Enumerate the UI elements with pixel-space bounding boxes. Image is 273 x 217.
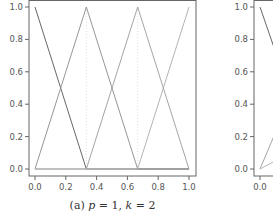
y-tick-label: 1.0 [234, 2, 248, 12]
series-line-b1 [260, 7, 273, 96]
x-tick-label: 0.2 [59, 182, 73, 192]
chart-b: 0.00.20.40.60.81.00.0 [234, 1, 273, 193]
series-line-b3 [35, 7, 189, 169]
y-tick-label: 0.8 [9, 34, 23, 44]
x-tick-label: 0.0 [253, 182, 267, 192]
chart-a: 0.00.20.40.60.81.00.00.20.40.60.81.0(a) … [9, 1, 196, 213]
y-tick-label: 0.2 [234, 132, 248, 142]
x-tick-label: 1.0 [182, 182, 196, 192]
y-tick-label: 1.0 [9, 2, 23, 12]
x-tick-label: 0.4 [90, 182, 104, 192]
y-tick-label: 0.4 [234, 99, 248, 109]
figure: 0.00.20.40.60.81.00.00.20.40.60.81.0(a) … [0, 0, 273, 217]
caption: (a) p = 1, k = 2 [70, 199, 156, 212]
series-line-b3 [260, 153, 273, 169]
y-tick-label: 0.6 [9, 67, 23, 77]
y-tick-label: 0.4 [9, 99, 23, 109]
y-tick-label: 0.8 [234, 34, 248, 44]
y-tick-label: 0.0 [234, 164, 248, 174]
y-tick-label: 0.0 [9, 164, 23, 174]
x-tick-label: 0.6 [121, 182, 135, 192]
plot-frame [254, 1, 273, 177]
y-tick-label: 0.6 [234, 67, 248, 77]
x-tick-label: 0.0 [28, 182, 42, 192]
series-line-b2 [260, 96, 273, 169]
y-tick-label: 0.2 [9, 132, 23, 142]
x-tick-label: 0.8 [151, 182, 165, 192]
